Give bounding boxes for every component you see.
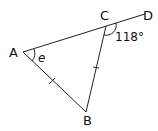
angle-label-118: 118° <box>115 30 144 44</box>
angle-arc-a <box>32 49 35 61</box>
label-a: A <box>9 45 18 60</box>
angle-label-e: e <box>38 51 45 65</box>
tick-mark-cb <box>93 67 99 68</box>
label-c: C <box>100 8 109 23</box>
label-b: B <box>83 113 92 128</box>
side-cb <box>86 26 106 112</box>
triangle-diagram: A B C D e 118° <box>0 0 158 131</box>
label-d: D <box>143 8 153 23</box>
